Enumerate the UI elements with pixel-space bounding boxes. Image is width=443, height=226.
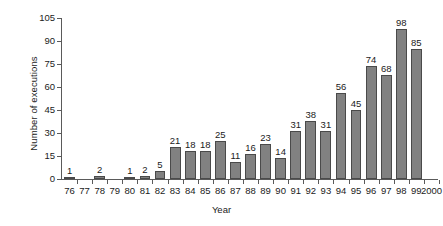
bar-value-label: 23 xyxy=(260,132,271,143)
bar xyxy=(64,177,75,179)
bar xyxy=(290,131,301,179)
x-tick-mark xyxy=(152,180,153,184)
x-tick-label: 87 xyxy=(230,185,241,196)
bar-value-label: 18 xyxy=(185,139,196,150)
bar xyxy=(381,75,392,179)
bar-value-label: 25 xyxy=(215,129,226,140)
x-tick-label: 76 xyxy=(64,185,75,196)
bar-value-label: 1 xyxy=(127,165,132,176)
x-tick-label: 98 xyxy=(396,185,407,196)
x-tick-mark xyxy=(333,180,334,184)
bar xyxy=(185,151,196,179)
x-tick-mark xyxy=(183,180,184,184)
x-tick-mark xyxy=(318,180,319,184)
bar xyxy=(94,176,105,179)
x-tick-mark xyxy=(273,180,274,184)
x-tick-mark xyxy=(168,180,169,184)
x-tick-label: 86 xyxy=(215,185,226,196)
bar-value-label: 21 xyxy=(170,135,181,146)
bar-value-label: 5 xyxy=(157,159,162,170)
bar xyxy=(230,162,241,179)
x-tick-mark xyxy=(379,180,380,184)
x-tick-label: 84 xyxy=(185,185,196,196)
x-tick-mark xyxy=(92,180,93,184)
y-tick-label: 15 xyxy=(44,150,55,161)
x-tick-label: 80 xyxy=(125,185,136,196)
y-tick-mark xyxy=(57,87,61,88)
bar xyxy=(215,141,226,179)
bar xyxy=(155,171,166,179)
bar xyxy=(396,29,407,179)
bar xyxy=(140,176,151,179)
x-tick-label: 89 xyxy=(260,185,271,196)
x-tick-mark xyxy=(349,180,350,184)
y-axis-line xyxy=(61,18,62,180)
y-tick-mark xyxy=(57,133,61,134)
x-tick-mark xyxy=(228,180,229,184)
x-tick-label: 85 xyxy=(200,185,211,196)
x-tick-mark xyxy=(439,180,440,184)
bar-value-label: 14 xyxy=(275,146,286,157)
x-axis-title: Year xyxy=(0,204,443,215)
y-tick-label: 0 xyxy=(50,173,55,184)
x-tick-label: 79 xyxy=(109,185,120,196)
y-tick-mark xyxy=(57,156,61,157)
x-tick-label: 82 xyxy=(155,185,166,196)
bar xyxy=(260,144,271,179)
x-tick-label: 2000 xyxy=(421,185,442,196)
y-tick-mark xyxy=(57,41,61,42)
bar-value-label: 31 xyxy=(321,119,332,130)
bar xyxy=(124,177,135,179)
bar-value-label: 2 xyxy=(97,164,102,175)
y-tick-label: 30 xyxy=(44,127,55,138)
plot-area: 0153045607590105 76777879808182838485868… xyxy=(61,18,438,180)
x-tick-label: 88 xyxy=(245,185,256,196)
x-tick-mark xyxy=(409,180,410,184)
x-tick-mark xyxy=(137,180,138,184)
bar-value-label: 56 xyxy=(336,81,347,92)
x-axis-line xyxy=(61,179,438,180)
y-tick-mark xyxy=(57,64,61,65)
x-tick-mark xyxy=(394,180,395,184)
x-tick-label: 81 xyxy=(140,185,151,196)
x-tick-mark xyxy=(424,180,425,184)
bar-chart: Number of executions 0153045607590105 76… xyxy=(0,0,443,226)
bar xyxy=(351,110,362,179)
bar-value-label: 85 xyxy=(411,37,422,48)
bar-value-label: 68 xyxy=(381,63,392,74)
bar-value-label: 1 xyxy=(67,165,72,176)
bar xyxy=(320,131,331,179)
y-tick-label: 60 xyxy=(44,81,55,92)
bar-value-label: 18 xyxy=(200,139,211,150)
x-tick-mark xyxy=(303,180,304,184)
y-axis-title: Number of executions xyxy=(28,19,39,189)
x-tick-label: 96 xyxy=(366,185,377,196)
y-tick-mark xyxy=(57,179,61,180)
x-tick-mark xyxy=(198,180,199,184)
x-tick-label: 97 xyxy=(381,185,392,196)
x-tick-mark xyxy=(77,180,78,184)
bar-value-label: 16 xyxy=(245,142,256,153)
x-tick-label: 95 xyxy=(351,185,362,196)
y-tick-mark xyxy=(57,18,61,19)
x-tick-label: 90 xyxy=(275,185,286,196)
bar xyxy=(411,49,422,179)
bar xyxy=(170,147,181,179)
x-tick-label: 93 xyxy=(321,185,332,196)
bar-value-label: 11 xyxy=(230,150,240,161)
y-tick-label: 75 xyxy=(44,58,55,69)
y-tick-label: 90 xyxy=(44,35,55,46)
bar xyxy=(336,93,347,179)
bar-value-label: 38 xyxy=(306,109,317,120)
y-tick-label: 45 xyxy=(44,104,55,115)
x-tick-label: 83 xyxy=(170,185,181,196)
bar xyxy=(245,154,256,179)
x-tick-mark xyxy=(122,180,123,184)
bar xyxy=(305,121,316,179)
y-tick-label: 105 xyxy=(39,12,55,23)
x-tick-label: 92 xyxy=(306,185,317,196)
x-tick-mark xyxy=(243,180,244,184)
x-tick-label: 77 xyxy=(79,185,90,196)
x-tick-mark xyxy=(288,180,289,184)
bar xyxy=(275,158,286,179)
